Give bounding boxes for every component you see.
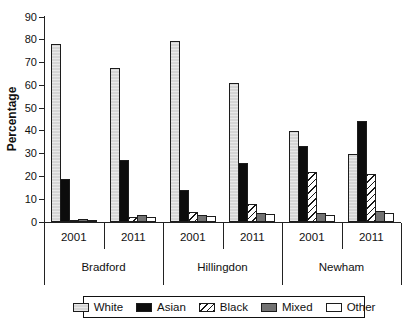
bar-other-hillingdon-2011 [265, 214, 275, 222]
y-tick-label-30: 30 [10, 147, 37, 159]
bar-other-newham-2001 [325, 215, 335, 222]
legend-label-other: Other [347, 301, 376, 313]
year-separator [223, 223, 224, 249]
legend-label-white: White [94, 301, 123, 313]
bar-group-newham-2001 [282, 131, 342, 222]
borough-label-bradford: Bradford [44, 261, 163, 273]
borough-separator [163, 223, 164, 285]
bar-asian-bradford-2011 [119, 160, 129, 222]
year-label-hillingdon-2011: 2011 [223, 231, 283, 243]
legend-entry-white: White [73, 301, 123, 313]
plot-area [44, 17, 401, 222]
bar-asian-bradford-2001 [60, 179, 70, 222]
legend-entry-asian: Asian [136, 301, 186, 313]
x-axis-line [40, 222, 401, 223]
bar-group-hillingdon-2011 [223, 83, 283, 222]
legend-swatch-black [199, 303, 215, 312]
bar-other-hillingdon-2001 [206, 216, 216, 222]
legend-swatch-white [73, 303, 89, 312]
legend-entry-other: Other [326, 301, 376, 313]
y-tick-label-50: 50 [10, 102, 37, 114]
legend: WhiteAsianBlackMixedOther [83, 296, 365, 318]
legend-label-mixed: Mixed [282, 301, 313, 313]
year-label-newham-2011: 2011 [342, 231, 402, 243]
bar-other-bradford-2001 [87, 220, 97, 222]
legend-entry-mixed: Mixed [261, 301, 313, 313]
year-label-hillingdon-2001: 2001 [163, 231, 223, 243]
year-separator [104, 223, 105, 249]
legend-swatch-other [326, 303, 342, 312]
legend-label-asian: Asian [157, 301, 186, 313]
y-tick-label-10: 10 [10, 193, 37, 205]
year-label-bradford-2011: 2011 [104, 231, 164, 243]
borough-separator [282, 223, 283, 285]
bar-group-newham-2011 [342, 121, 402, 222]
year-label-newham-2001: 2001 [282, 231, 342, 243]
y-tick-label-40: 40 [10, 124, 37, 136]
y-tick-label-0: 0 [10, 216, 37, 228]
y-tick-label-90: 90 [10, 11, 37, 23]
legend-label-black: Black [220, 301, 248, 313]
legend-entry-black: Black [199, 301, 248, 313]
y-tick-label-70: 70 [10, 56, 37, 68]
year-label-bradford-2001: 2001 [44, 231, 104, 243]
y-tick-label-60: 60 [10, 79, 37, 91]
bar-group-bradford-2001 [44, 44, 104, 222]
bar-other-newham-2011 [384, 213, 394, 222]
borough-label-hillingdon: Hillingdon [163, 261, 282, 273]
bar-group-hillingdon-2001 [163, 41, 223, 222]
bar-other-bradford-2011 [146, 217, 156, 222]
y-tick-label-80: 80 [10, 33, 37, 45]
year-separator [342, 223, 343, 249]
bar-chart: Percentage 0102030405060708090 200120112… [0, 0, 410, 334]
y-tick-label-20: 20 [10, 170, 37, 182]
legend-swatch-mixed [261, 303, 277, 312]
borough-label-newham: Newham [282, 261, 401, 273]
legend-swatch-asian [136, 303, 152, 312]
borough-separator [401, 223, 402, 285]
borough-separator [44, 223, 45, 285]
bar-group-bradford-2011 [104, 68, 164, 222]
